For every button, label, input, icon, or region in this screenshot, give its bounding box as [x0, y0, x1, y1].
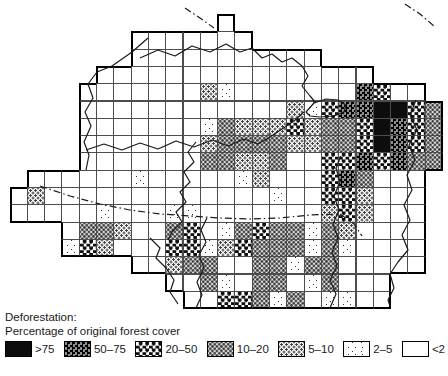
map-cell: [217, 274, 235, 292]
map-cell: [338, 274, 356, 292]
map-cell: [165, 239, 183, 257]
legend-label: >75: [35, 343, 55, 355]
map-cell: [286, 222, 304, 240]
map-cell: [304, 291, 322, 309]
map-cell: [234, 274, 252, 292]
map-cell: [286, 152, 304, 170]
map-cell: [183, 66, 201, 84]
legend-label: <2: [432, 343, 445, 355]
legend-item: <2: [402, 341, 445, 357]
legend-item: 5–10: [278, 341, 334, 357]
map-cell: [269, 291, 287, 309]
map-cell: [356, 118, 374, 136]
map-cell: [217, 222, 235, 240]
map-cell: [356, 291, 374, 309]
map-cell: [217, 31, 235, 49]
map-cell: [79, 118, 97, 136]
map-cell: [269, 239, 287, 257]
map-cell: [338, 135, 356, 153]
map-cell: [165, 66, 183, 84]
map-cell: [252, 239, 270, 257]
map-cell: [165, 187, 183, 205]
map-cell: [165, 222, 183, 240]
map-cell: [200, 170, 218, 188]
map-cell: [217, 187, 235, 205]
map-cell: [183, 187, 201, 205]
map-cell: [321, 118, 339, 136]
map-cell: [217, 135, 235, 153]
map-cell: [200, 204, 218, 222]
map-cell: [252, 187, 270, 205]
map-cell: [165, 83, 183, 101]
map-cell: [338, 291, 356, 309]
map-cell: [131, 101, 149, 119]
map-cell: [61, 204, 79, 222]
map-cell: [286, 239, 304, 257]
legend-label: 5–10: [308, 343, 334, 355]
map-cell: [269, 222, 287, 240]
map-cell: [234, 66, 252, 84]
map-cell: [10, 187, 28, 205]
map-cell: [269, 152, 287, 170]
map-cell: [269, 118, 287, 136]
legend-title-line1: Deforestation:: [5, 311, 180, 325]
map-cell: [407, 222, 425, 240]
map-cell: [407, 239, 425, 257]
map-cell: [131, 66, 149, 84]
map-cell: [286, 101, 304, 119]
map-cell: [390, 170, 408, 188]
map-cell: [407, 118, 425, 136]
map-cell: [356, 222, 374, 240]
map-cell: [165, 118, 183, 136]
map-cell: [269, 101, 287, 119]
map-cell: [304, 256, 322, 274]
map-cell: [338, 152, 356, 170]
map-cell: [373, 256, 391, 274]
map-cell: [217, 66, 235, 84]
map-cell: [79, 152, 97, 170]
map-cell: [407, 170, 425, 188]
map-cell: [407, 135, 425, 153]
map-cell: [338, 66, 356, 84]
map-cell: [356, 187, 374, 205]
map-cell: [96, 204, 114, 222]
map-cell: [96, 152, 114, 170]
map-cell: [373, 152, 391, 170]
map-cell: [183, 135, 201, 153]
map-cell: [321, 222, 339, 240]
legend-label: 50–75: [94, 343, 126, 355]
map-cell: [217, 83, 235, 101]
map-cell: [217, 101, 235, 119]
legend-item: 2–5: [343, 341, 392, 357]
map-cell: [304, 274, 322, 292]
map-cell: [356, 152, 374, 170]
map-cell: [200, 101, 218, 119]
map-cell: [200, 187, 218, 205]
map-cell: [234, 49, 252, 67]
map-cell: [183, 83, 201, 101]
legend-swatch: [135, 341, 162, 357]
map-cell: [165, 152, 183, 170]
map-cell: [61, 222, 79, 240]
map-cell: [200, 222, 218, 240]
map-cell: [79, 170, 97, 188]
map-cell: [390, 239, 408, 257]
legend: >7550–7520–5010–205–102–5<2: [5, 341, 445, 357]
map-cell: [183, 274, 201, 292]
map-cell: [321, 204, 339, 222]
map-cell: [217, 118, 235, 136]
map-cell: [113, 101, 131, 119]
map-cell: [96, 118, 114, 136]
map-cell: [131, 118, 149, 136]
map-cell: [200, 256, 218, 274]
map-cell: [286, 135, 304, 153]
map-cell: [148, 66, 166, 84]
map-cell: [304, 222, 322, 240]
map-cell: [217, 204, 235, 222]
map-cell: [269, 49, 287, 67]
map-cell: [61, 170, 79, 188]
map-cell: [252, 204, 270, 222]
map-cell: [61, 187, 79, 205]
map-cell: [131, 135, 149, 153]
map-cell: [356, 170, 374, 188]
